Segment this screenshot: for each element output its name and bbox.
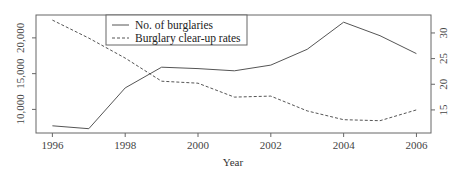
- left-y-axis: 10,00015,00020,000: [14, 22, 36, 124]
- x-tick-label: 1996: [41, 139, 64, 151]
- x-tick-label: 2004: [333, 139, 356, 151]
- right-tick-label: 20: [437, 78, 449, 90]
- legend: No. of burglaries Burglary clear-up rate…: [106, 15, 247, 45]
- left-tick-label: 10,000: [14, 94, 26, 125]
- right-tick-label: 25: [437, 53, 449, 65]
- x-axis-title: Year: [223, 156, 244, 168]
- right-tick-label: 30: [437, 27, 449, 39]
- left-tick-label: 20,000: [14, 22, 26, 53]
- dual-axis-line-chart: 10,00015,00020,000 15202530 199619982000…: [0, 0, 459, 175]
- legend-label-burglaries: No. of burglaries: [135, 19, 214, 32]
- x-tick-label: 2002: [260, 139, 282, 151]
- left-tick-label: 15,000: [14, 58, 26, 89]
- legend-label-clearup: Burglary clear-up rates: [135, 32, 241, 45]
- right-y-axis: 15202530: [431, 27, 449, 115]
- right-tick-label: 15: [437, 104, 449, 116]
- x-tick-label: 2000: [187, 139, 210, 151]
- x-tick-label: 1998: [114, 139, 137, 151]
- x-axis: 199619982000200220042006: [41, 133, 428, 151]
- x-tick-label: 2006: [405, 139, 428, 151]
